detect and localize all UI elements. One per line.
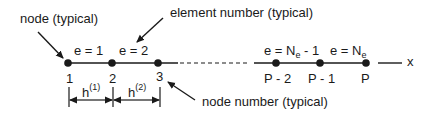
- label-node-typical: node (typical): [20, 12, 98, 25]
- length-label-h2: h(2): [128, 86, 146, 99]
- node-1: [64, 59, 72, 67]
- element-label-ne-minus-1: e = Ne - 1: [264, 44, 319, 57]
- arrow-element-number: [137, 18, 163, 42]
- node-number-1: 1: [66, 72, 73, 85]
- arrow-node-number: [168, 82, 195, 100]
- node-number-3: 3: [156, 70, 163, 83]
- axis-label-x: x: [407, 55, 414, 68]
- node-number-2: 2: [109, 72, 116, 85]
- node-p-1: [316, 59, 324, 67]
- node-p-2: [272, 59, 280, 67]
- length-label-h1: h(1): [82, 86, 100, 99]
- node-p: [362, 59, 370, 67]
- element-label-1: e = 1: [74, 44, 103, 57]
- arrow-node-typical: [38, 32, 63, 58]
- label-element-number-typical: element number (typical): [170, 6, 313, 19]
- node-number-p-1: P - 1: [308, 72, 335, 85]
- element-label-2: e = 2: [119, 44, 148, 57]
- label-node-number-typical: node number (typical): [202, 95, 328, 108]
- node-number-p-2: P - 2: [264, 72, 291, 85]
- node-number-p: P: [361, 72, 370, 85]
- element-label-ne: e = Ne: [330, 44, 366, 57]
- node-2: [108, 59, 116, 67]
- node-3: [154, 59, 162, 67]
